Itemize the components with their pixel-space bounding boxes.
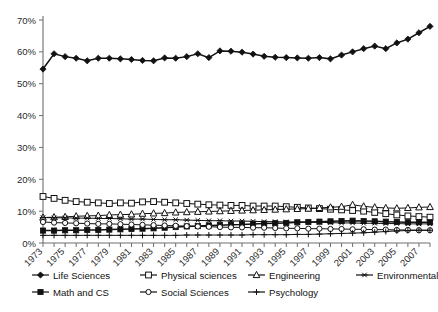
legend-label: Environmental (377, 270, 438, 281)
y-tick-label: 30% (17, 142, 37, 153)
data-point (128, 56, 134, 62)
data-point (151, 232, 157, 238)
data-point (317, 226, 322, 231)
data-point (250, 51, 256, 57)
data-point (361, 273, 367, 277)
data-point (254, 289, 260, 295)
series-life-sciences (40, 23, 433, 72)
data-point (427, 203, 434, 209)
x-tick-label: 1993 (243, 246, 266, 269)
data-point (184, 224, 189, 229)
data-point (84, 58, 90, 64)
line-chart: 0%10%20%30%40%50%60%70%19731975197719791… (0, 0, 438, 312)
data-point (228, 225, 233, 230)
data-point (85, 221, 90, 226)
data-point (73, 55, 79, 61)
chart-container: 0%10%20%30%40%50%60%70%19731975197719791… (0, 0, 438, 312)
data-point (316, 54, 322, 60)
data-point (195, 51, 201, 57)
data-point (327, 231, 333, 237)
data-point (151, 199, 157, 205)
data-point (85, 227, 90, 232)
data-point (383, 211, 389, 217)
legend-label: Math and CS (53, 287, 109, 298)
x-tick-label: 2005 (376, 246, 399, 269)
x-tick-label: 2003 (353, 246, 376, 269)
data-point (372, 43, 378, 49)
data-point (294, 55, 300, 61)
data-point (139, 57, 145, 63)
legend-item-psychology[interactable]: Psychology (248, 287, 318, 298)
data-point (350, 208, 356, 214)
data-point (427, 23, 433, 29)
data-point (84, 232, 90, 238)
legend-item-math-and-cs[interactable]: Math and CS (32, 287, 109, 298)
data-point (62, 197, 68, 203)
data-point (361, 46, 367, 52)
x-tick-label: 1991 (221, 246, 244, 269)
data-point (339, 230, 345, 236)
legend: Life SciencesPhysical sciencesEngineerin… (32, 270, 438, 298)
data-point (63, 220, 68, 225)
data-point (40, 194, 46, 200)
data-point (295, 226, 300, 231)
data-point (118, 222, 123, 227)
data-point (62, 54, 68, 60)
x-axis: 1973197519771979198119831985198719891991… (22, 243, 430, 268)
data-point (150, 217, 156, 221)
data-point (372, 219, 377, 224)
data-point (195, 232, 201, 238)
data-point (416, 220, 421, 225)
data-point (350, 49, 356, 55)
x-tick-label: 1999 (309, 246, 332, 269)
data-point (128, 217, 134, 221)
data-point (162, 55, 168, 61)
data-point (339, 218, 344, 223)
data-point (129, 200, 135, 206)
y-tick-label: 40% (17, 110, 37, 121)
data-point (283, 54, 289, 60)
legend-label: Psychology (269, 287, 318, 298)
legend-item-life-sciences[interactable]: Life Sciences (32, 270, 110, 281)
data-point (349, 201, 356, 207)
data-point (117, 56, 123, 62)
legend-item-engineering[interactable]: Engineering (248, 270, 320, 281)
data-point (427, 220, 432, 225)
data-point (150, 58, 156, 64)
legend-item-environmental[interactable]: Environmental (356, 270, 438, 281)
data-point (239, 225, 244, 230)
data-point (173, 223, 178, 228)
x-tick-label: 1987 (176, 246, 199, 269)
data-point (74, 228, 79, 233)
data-point (37, 272, 43, 278)
data-point (416, 30, 422, 36)
legend-item-physical-sciences[interactable]: Physical sciences (140, 270, 237, 281)
data-point (306, 226, 311, 231)
data-point (261, 232, 267, 238)
data-point (151, 223, 156, 228)
x-tick-label: 1995 (265, 246, 288, 269)
legend-label: Life Sciences (53, 270, 110, 281)
data-point (262, 225, 267, 230)
data-point (405, 213, 411, 219)
data-point (161, 218, 167, 222)
data-point (118, 227, 123, 232)
data-point (272, 54, 278, 60)
data-point (106, 232, 112, 238)
data-point (261, 53, 267, 59)
data-point (327, 56, 333, 62)
series-line (43, 26, 430, 69)
data-point (95, 232, 101, 238)
data-point (416, 214, 422, 220)
data-point (172, 218, 178, 222)
legend-item-social-sciences[interactable]: Social Sciences (140, 287, 229, 298)
data-point (317, 219, 322, 224)
data-point (146, 289, 151, 294)
data-point (295, 220, 300, 225)
data-point (162, 199, 168, 205)
x-tick-label: 1977 (66, 246, 89, 269)
data-point (74, 221, 79, 226)
data-point (107, 227, 112, 232)
data-point (405, 36, 411, 42)
data-point (195, 218, 201, 222)
